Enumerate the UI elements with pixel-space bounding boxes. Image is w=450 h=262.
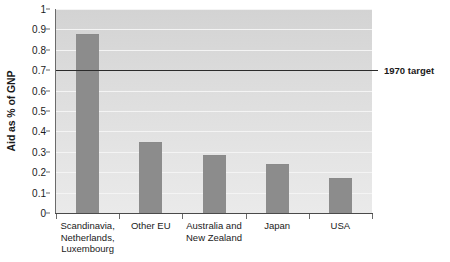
- x-axis-category-label-line: Scandinavia,: [56, 220, 119, 232]
- x-axis-category-label-line: Japan: [246, 220, 309, 232]
- y-axis-tick-label: 0.1: [32, 187, 46, 198]
- gridline: [56, 29, 372, 30]
- bar: [329, 178, 352, 213]
- y-axis-tick-mark: [46, 111, 50, 112]
- x-axis-tick-mark: [246, 214, 247, 219]
- gridline: [56, 131, 372, 132]
- y-axis-tick-label: 0.5: [32, 106, 46, 117]
- y-axis-tick-mark: [46, 172, 50, 173]
- y-axis-tick-mark: [46, 90, 50, 91]
- x-axis-category-label-line: Other EU: [119, 220, 182, 232]
- x-axis-category-label-line: New Zealand: [182, 232, 245, 244]
- y-axis-tick-mark: [46, 49, 50, 50]
- y-axis-tick-mark: [46, 192, 50, 193]
- y-axis-tick-mark: [46, 213, 50, 214]
- x-axis-category-label-line: Australia and: [182, 220, 245, 232]
- y-axis-tick-mark: [46, 70, 50, 71]
- x-axis-tick-mark: [372, 214, 373, 219]
- y-axis-tick-mark: [46, 151, 50, 152]
- x-axis-tick-mark: [182, 214, 183, 219]
- x-axis-category-label: Australia andNew Zealand: [182, 220, 245, 243]
- y-axis-tick-mark: [46, 131, 50, 132]
- x-axis-category-label-line: Luxembourg: [56, 243, 119, 255]
- y-axis-tick-label: 0.2: [32, 167, 46, 178]
- bar: [76, 34, 99, 214]
- bar: [266, 164, 289, 213]
- bar: [203, 155, 226, 213]
- plot-area: [56, 9, 372, 213]
- x-axis-tick-mark: [119, 214, 120, 219]
- y-axis-tick-mark: [46, 29, 50, 30]
- gridline: [56, 50, 372, 51]
- x-axis-category-label: Japan: [246, 220, 309, 232]
- y-axis-tick-label: 0.9: [32, 24, 46, 35]
- y-axis-tick-label: 0.7: [32, 65, 46, 76]
- x-axis-category-label-line: USA: [309, 220, 372, 232]
- chart-figure: Aid as % of GNP 00.10.20.30.40.50.60.70.…: [0, 0, 450, 262]
- y-axis-tick-label: 0.4: [32, 126, 46, 137]
- y-axis-tick-label: 0.3: [32, 146, 46, 157]
- y-axis-line: [55, 9, 56, 214]
- x-axis-tick-mark: [56, 214, 57, 219]
- y-axis-tick-mark: [46, 9, 50, 10]
- y-axis-title: Aid as % of GNP: [0, 0, 22, 222]
- target-line-1970: [56, 70, 378, 71]
- y-axis-title-label: Aid as % of GNP: [5, 71, 17, 152]
- x-axis-category-label: Other EU: [119, 220, 182, 232]
- target-line-annotation: 1970 target: [384, 65, 434, 76]
- gridline: [56, 9, 372, 10]
- bar: [139, 142, 162, 213]
- x-axis-line: [55, 213, 373, 214]
- x-axis-category-label-line: Netherlands,: [56, 232, 119, 244]
- x-axis-category-label: Scandinavia,Netherlands,Luxembourg: [56, 220, 119, 255]
- x-axis-tick-mark: [309, 214, 310, 219]
- x-axis-category-labels: Scandinavia,Netherlands,LuxembourgOther …: [56, 220, 372, 262]
- x-axis-category-label: USA: [309, 220, 372, 232]
- gridline: [56, 91, 372, 92]
- y-axis-tick-labels: 00.10.20.30.40.50.60.70.80.91: [20, 9, 50, 213]
- gridline: [56, 111, 372, 112]
- y-axis-tick-label: 0.8: [32, 44, 46, 55]
- gridline: [56, 152, 372, 153]
- y-axis-tick-label: 0.6: [32, 85, 46, 96]
